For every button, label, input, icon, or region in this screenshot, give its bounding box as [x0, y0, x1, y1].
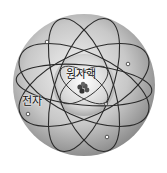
atom-diagram: 원자핵 전자	[0, 0, 167, 173]
electron-label: 전자	[22, 96, 42, 107]
nucleus-label: 원자핵	[66, 69, 96, 80]
atom-illustration	[0, 0, 167, 173]
